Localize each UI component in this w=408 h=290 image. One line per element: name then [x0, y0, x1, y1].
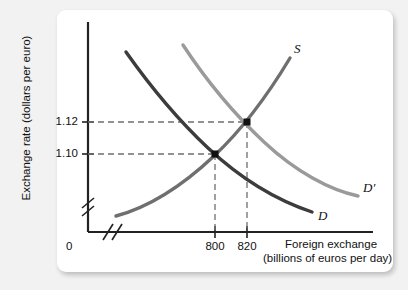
figure-root: Exchange rate (dollars per euro)	[0, 0, 408, 290]
x-tick-label-820: 820	[227, 240, 267, 252]
x-axis-title-line2: (billions of euros per day)	[263, 252, 392, 266]
origin-label: 0	[66, 240, 72, 252]
curve-supply-S	[116, 58, 290, 216]
curve-demand-D-prime	[183, 45, 358, 196]
equilibrium-marker-original	[212, 151, 219, 158]
y-tick-label-1-10: 1.10	[36, 147, 78, 159]
y-tick-label-1-12: 1.12	[36, 115, 78, 127]
curve-label-S: S	[294, 41, 301, 57]
equilibrium-marker-new	[244, 119, 251, 126]
x-axis-title-line1: Foreign exchange	[285, 238, 377, 252]
curve-label-D-prime: D′	[363, 180, 375, 196]
curve-demand-D	[126, 52, 312, 212]
curve-label-D: D	[318, 208, 327, 224]
